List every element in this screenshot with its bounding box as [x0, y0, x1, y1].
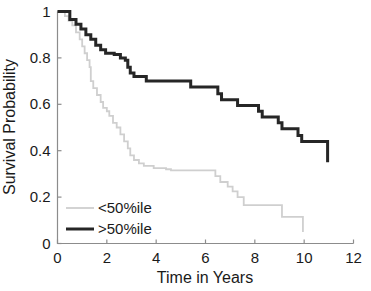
x-tick-label: 6 — [201, 249, 209, 266]
legend-label-above-median: >50%ile — [98, 220, 152, 237]
x-tick-label: 2 — [103, 249, 111, 266]
y-tick-label: 1 — [42, 3, 50, 20]
y-tick-label: 0.8 — [30, 49, 51, 66]
y-tick-label: 0.2 — [30, 188, 51, 205]
y-axis-tick-labels: 00.20.40.60.81 — [30, 3, 51, 252]
survival-chart-figure: 00.20.40.60.81 024681012 Time in Years S… — [0, 0, 371, 291]
x-tick-label: 4 — [152, 249, 160, 266]
x-tick-label: 0 — [53, 249, 61, 266]
legend-label-below-median: <50%ile — [98, 199, 152, 216]
x-tick-label: 8 — [251, 249, 259, 266]
chart-legend: <50%ile >50%ile — [66, 199, 152, 237]
survival-plot-svg: 00.20.40.60.81 024681012 Time in Years S… — [0, 0, 371, 291]
series-line-above-median — [58, 12, 328, 163]
x-axis-title: Time in Years — [157, 269, 253, 286]
y-tick-label: 0.4 — [30, 142, 51, 159]
y-axis-title: Survival Probability — [1, 59, 18, 195]
y-tick-label: 0 — [42, 235, 50, 252]
x-axis-tick-labels: 024681012 — [53, 249, 362, 266]
x-tick-label: 12 — [345, 249, 362, 266]
x-tick-label: 10 — [296, 249, 313, 266]
y-tick-label: 0.6 — [30, 95, 51, 112]
